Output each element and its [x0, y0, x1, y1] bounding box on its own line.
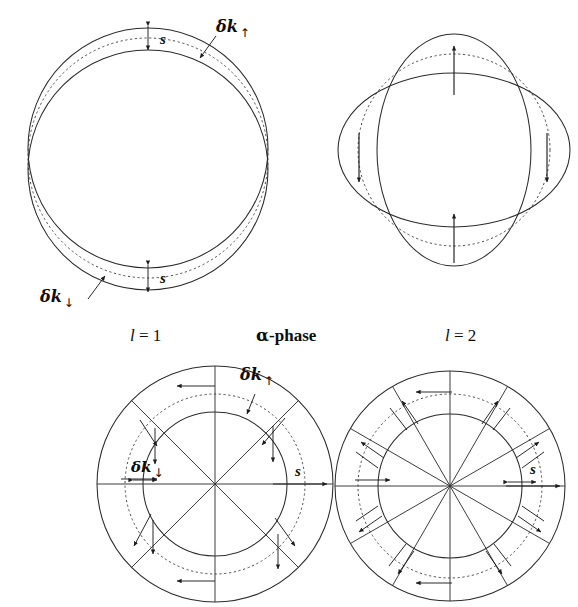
- spoke: [450, 429, 550, 487]
- spin-arrow: [486, 551, 502, 574]
- caption-row: l = 1 α-phase l = 2: [0, 324, 578, 358]
- dk-up-leader: [247, 394, 255, 414]
- spin-arrow: [482, 401, 498, 424]
- spin-arrow: [356, 452, 378, 468]
- spoke: [393, 486, 451, 586]
- figure-canvas: s s δk↑ δk↓: [0, 0, 578, 607]
- spin-arrow: [398, 551, 414, 574]
- caption-l-equals-2: l = 2: [445, 326, 476, 346]
- spin-arrow: [522, 506, 544, 521]
- spin-arrow: [361, 442, 384, 458]
- spin-arrow: [518, 516, 541, 532]
- inner-circle: [28, 50, 268, 290]
- outer-circle: [28, 28, 268, 268]
- spin-arrow: [262, 418, 285, 445]
- spin-arrow: [389, 544, 406, 566]
- spin-arrow-group: [121, 386, 327, 581]
- spin-arrow: [516, 442, 539, 458]
- spoke: [450, 486, 508, 586]
- dk-down-label: δk↓: [130, 458, 163, 480]
- caption-phase-text: -phase: [269, 326, 316, 345]
- dk-up-label: δk↑: [215, 17, 250, 40]
- wide-ellipse: [338, 73, 570, 227]
- panel-polar-l1: δk↑ δk↓ s: [95, 362, 335, 607]
- caption-l2-relation: =: [450, 326, 468, 345]
- spoke: [450, 386, 508, 486]
- caption-l1-value: 1: [153, 326, 162, 345]
- caption-alpha-symbol: α: [256, 325, 269, 345]
- spoke: [350, 429, 450, 487]
- spin-arrow: [493, 408, 510, 430]
- caption-l2-value: 2: [468, 326, 477, 345]
- s-label: s: [529, 461, 536, 477]
- panel-l2-crossed-ellipses: [290, 0, 578, 320]
- spin-arrow: [356, 506, 378, 521]
- spin-arrow: [134, 514, 151, 546]
- spin-arrow: [402, 401, 418, 424]
- caption-l-equals-1: l = 1: [130, 326, 161, 346]
- s-bottom-label: s: [159, 270, 166, 286]
- panel-polar-l2: s: [330, 368, 570, 607]
- spin-arrow: [390, 408, 407, 430]
- caption-l1-relation: =: [135, 326, 153, 345]
- spin-arrow: [359, 516, 382, 532]
- s-label: s: [294, 463, 301, 479]
- spin-arrow: [494, 544, 511, 566]
- panel-l1-displaced-circles: s s δk↑ δk↓: [0, 0, 290, 320]
- dk-up-label: δk↑: [239, 365, 274, 388]
- spoke: [393, 386, 451, 486]
- dashed-circle: [28, 38, 268, 278]
- s-top-label: s: [159, 31, 166, 47]
- dk-down-label: δk↓: [39, 287, 74, 310]
- caption-alpha-phase: α-phase: [256, 325, 316, 346]
- dk-down-leader: [88, 276, 105, 299]
